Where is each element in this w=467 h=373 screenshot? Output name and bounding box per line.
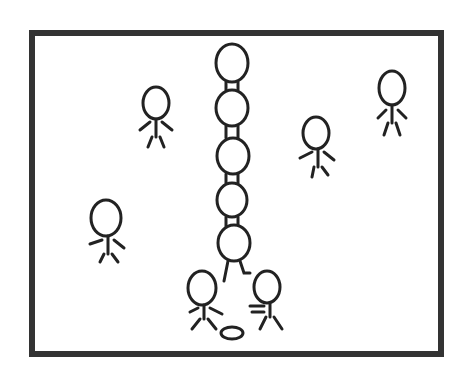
figure-left-top xyxy=(140,87,172,147)
figure-left-mid xyxy=(90,200,124,262)
ball xyxy=(221,327,243,339)
cartoon-illustration xyxy=(0,0,467,373)
figure-tower xyxy=(216,44,250,281)
figure-right-top xyxy=(378,71,406,135)
figure-bottom-right xyxy=(250,271,282,329)
figure-bottom-left xyxy=(188,271,222,329)
figure-right-mid xyxy=(300,117,334,177)
